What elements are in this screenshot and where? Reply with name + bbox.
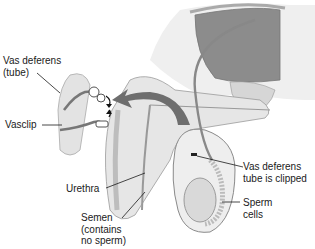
vasclip-ring [97, 94, 105, 102]
testicle [184, 178, 216, 222]
label-urethra: Urethra [66, 183, 99, 195]
vasclip-body [96, 121, 108, 127]
vas-clip-mark [191, 153, 197, 156]
label-semen: Semen (contains no sperm) [81, 212, 126, 247]
inset-tissue [58, 74, 90, 155]
label-vas-clipped: Vas deferens tube is clipped [243, 161, 307, 184]
label-vas-deferens: Vas deferens (tube) [3, 55, 61, 78]
vasectomy-diagram: Vas deferens (tube) Vasclip Urethra Seme… [0, 0, 315, 249]
label-sperm-cells: Sperm cells [243, 197, 272, 220]
label-vasclip: Vasclip [5, 119, 37, 131]
corpus [115, 110, 118, 210]
clip-arrow-down-head [106, 104, 112, 108]
